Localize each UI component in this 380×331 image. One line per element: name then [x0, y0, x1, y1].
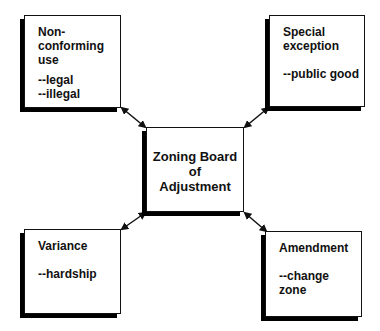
node-title: Special exception — [283, 25, 360, 53]
node-detail: --public good — [283, 67, 360, 81]
node-title: Amendment — [279, 241, 357, 255]
node-zoning-board: Zoning Board of Adjustment — [146, 127, 244, 212]
arrow-special-board — [245, 108, 268, 127]
node-variance: Variance --hardship — [24, 229, 121, 314]
node-amendment: Amendment --change zone — [265, 231, 362, 317]
node-detail: --legal --illegal — [38, 73, 116, 101]
arrow-variance-board — [122, 213, 145, 229]
node-non-conforming-use: Non- conforming use --legal --illegal — [24, 15, 121, 108]
node-title: Variance — [38, 239, 116, 253]
center-label: Zoning Board of Adjustment — [147, 149, 243, 194]
node-special-exception: Special exception --public good — [269, 15, 365, 107]
arrow-nonconforming-board — [122, 108, 145, 127]
node-detail: --hardship — [38, 267, 116, 281]
arrow-amendment-board — [245, 213, 266, 231]
node-detail: --change zone — [279, 269, 357, 297]
node-title: Non- conforming use — [38, 25, 116, 67]
